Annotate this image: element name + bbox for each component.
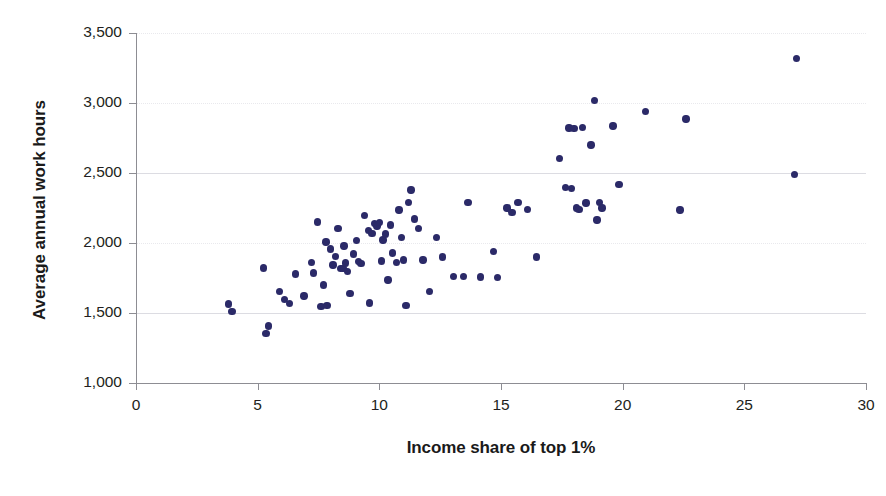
data-point: [575, 206, 582, 213]
data-point: [598, 204, 605, 211]
x-tick-mark: [623, 383, 624, 390]
scatter-chart-figure: Average annual work hours 1,0001,5002,00…: [0, 0, 886, 496]
x-tick-label: 25: [724, 396, 764, 414]
data-point: [376, 219, 383, 226]
x-tick-label: 15: [481, 396, 521, 414]
x-tick-label: 20: [603, 396, 643, 414]
data-point: [464, 199, 471, 206]
data-point: [426, 288, 433, 295]
data-point: [579, 124, 586, 131]
data-point: [591, 97, 598, 104]
data-point: [533, 253, 540, 260]
data-point: [292, 270, 299, 277]
data-point: [676, 206, 683, 213]
y-tick-mark: [129, 243, 136, 244]
data-point: [570, 125, 577, 132]
data-point: [260, 264, 267, 271]
data-point: [387, 221, 394, 228]
data-point: [582, 199, 589, 206]
data-point: [524, 206, 531, 213]
data-point: [419, 256, 426, 263]
data-point: [225, 300, 232, 307]
data-point: [407, 186, 414, 193]
data-point: [310, 269, 317, 276]
x-tick-mark: [744, 383, 745, 390]
y-tick-mark: [129, 33, 136, 34]
data-point: [300, 292, 307, 299]
y-tick-label: 2,500: [48, 163, 122, 181]
data-point: [262, 330, 269, 337]
data-point: [450, 273, 457, 280]
y-tick-label: 2,000: [48, 233, 122, 251]
data-point: [398, 234, 405, 241]
plot-area: [136, 33, 866, 383]
data-point: [332, 253, 339, 260]
data-point: [340, 242, 347, 249]
data-point: [490, 248, 497, 255]
data-point: [382, 230, 389, 237]
data-point: [609, 122, 616, 129]
data-point: [433, 234, 440, 241]
data-point: [384, 276, 391, 283]
data-point: [357, 260, 364, 267]
data-point: [378, 257, 385, 264]
data-point: [327, 245, 334, 252]
data-point: [415, 225, 422, 232]
data-point: [411, 215, 418, 222]
data-point: [791, 171, 798, 178]
y-tick-label: 1,500: [48, 303, 122, 321]
data-point: [329, 261, 336, 268]
data-point: [286, 300, 293, 307]
data-point: [395, 206, 402, 213]
x-tick-mark: [136, 383, 137, 390]
data-point: [556, 155, 563, 162]
data-point: [334, 225, 341, 232]
data-point: [642, 108, 649, 115]
data-point: [793, 55, 800, 62]
data-point: [346, 290, 353, 297]
y-tick-label: 3,500: [48, 23, 122, 41]
data-point: [593, 216, 600, 223]
y-tick-label: 1,000: [48, 373, 122, 391]
x-axis-title: Income share of top 1%: [136, 438, 866, 458]
data-point: [568, 185, 575, 192]
data-point: [344, 268, 351, 275]
data-point: [477, 273, 484, 280]
data-point: [389, 249, 396, 256]
data-point: [587, 141, 594, 148]
data-point: [323, 302, 330, 309]
data-point: [320, 281, 327, 288]
data-point: [400, 256, 407, 263]
data-point: [402, 302, 409, 309]
data-point: [615, 181, 622, 188]
y-tick-mark: [129, 313, 136, 314]
data-point: [682, 115, 689, 122]
y-tick-mark: [129, 173, 136, 174]
data-point: [393, 259, 400, 266]
data-point: [494, 274, 501, 281]
data-point: [368, 230, 375, 237]
data-point: [508, 209, 515, 216]
x-tick-label: 10: [359, 396, 399, 414]
data-point: [265, 322, 272, 329]
data-point: [460, 273, 467, 280]
y-tick-mark: [129, 103, 136, 104]
data-point: [314, 218, 321, 225]
y-tick-mark: [129, 383, 136, 384]
x-tick-mark: [866, 383, 867, 390]
x-tick-label: 5: [238, 396, 278, 414]
x-tick-label: 0: [116, 396, 156, 414]
data-point: [353, 237, 360, 244]
data-point: [514, 199, 521, 206]
data-point: [405, 199, 412, 206]
data-point: [276, 288, 283, 295]
x-tick-mark: [379, 383, 380, 390]
x-tick-mark: [258, 383, 259, 390]
y-axis-title: Average annual work hours: [20, 10, 60, 410]
x-tick-label: 30: [846, 396, 886, 414]
data-point: [439, 253, 446, 260]
data-point: [361, 212, 368, 219]
data-point: [366, 299, 373, 306]
y-tick-label: 3,000: [48, 93, 122, 111]
data-point: [308, 259, 315, 266]
